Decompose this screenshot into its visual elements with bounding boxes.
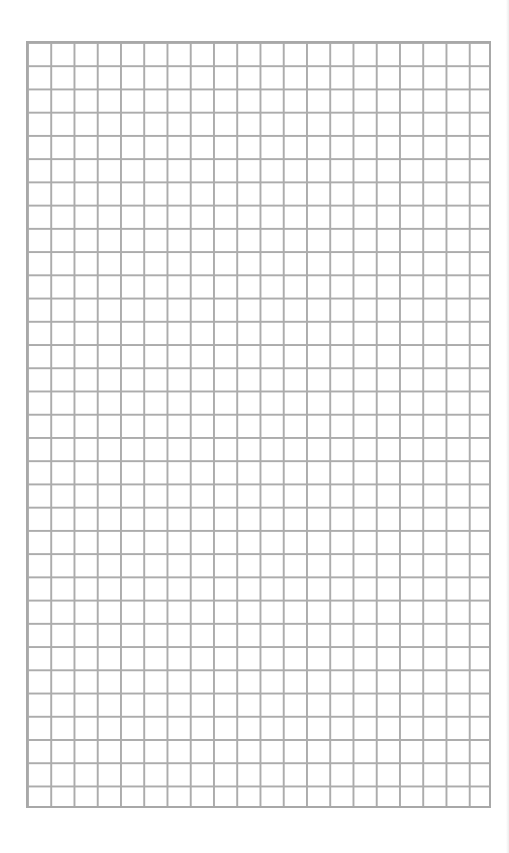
- graph-paper-grid: [26, 41, 491, 808]
